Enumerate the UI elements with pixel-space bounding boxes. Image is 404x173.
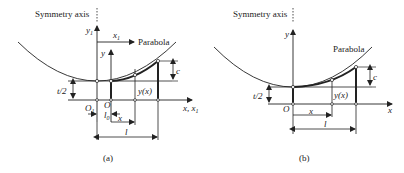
t2-label: t/2: [253, 91, 263, 101]
vertex-point: [95, 79, 98, 82]
symmetry-axis-label: Symmetry axis: [35, 9, 90, 19]
y-label: y: [100, 48, 105, 58]
yx-label: y(x): [137, 86, 152, 96]
O-label: O: [104, 100, 111, 110]
x-axis-label: x: [387, 105, 392, 115]
panel-a: Symmetry axis y1 x1 Parabola y x, x1 c t…: [18, 8, 199, 163]
point: [330, 78, 333, 81]
point: [96, 99, 99, 102]
c-label: c: [176, 66, 180, 76]
l-label: l: [125, 127, 128, 137]
point: [134, 99, 137, 102]
yx-label: y(x): [333, 90, 348, 100]
y1-label: y1: [85, 25, 93, 36]
point: [292, 103, 295, 106]
vertex-point: [291, 85, 294, 88]
point: [109, 79, 112, 82]
parabola-label: Parabola: [138, 37, 170, 47]
point: [156, 59, 159, 62]
point: [157, 99, 160, 102]
x-label: x: [117, 113, 122, 123]
t2-label: t/2: [57, 86, 67, 96]
x-label: x: [308, 106, 313, 116]
caption-a: (a): [103, 153, 113, 163]
x1-label: x1: [112, 30, 120, 41]
point: [354, 65, 357, 68]
point: [133, 73, 136, 76]
symmetry-axis-label: Symmetry axis: [233, 9, 288, 19]
y-label: y: [284, 29, 289, 39]
panel-b: Symmetry axis y Parabola x c t/2 y(x): [214, 8, 392, 163]
caption-b: (b): [299, 153, 310, 163]
O1-label: O1: [85, 103, 95, 114]
O-label: O: [283, 104, 290, 114]
parabola-label: Parabola: [333, 44, 365, 54]
l-label: l: [324, 119, 327, 129]
diagram-canvas: Symmetry axis y1 x1 Parabola y x, x1 c t…: [0, 0, 404, 173]
c-label: c: [373, 72, 377, 82]
point: [331, 103, 334, 106]
parabola-segment-bold: [293, 67, 356, 87]
point: [355, 103, 358, 106]
l0-label: l0: [104, 110, 110, 121]
x-axis-label: x, x1: [182, 103, 199, 114]
